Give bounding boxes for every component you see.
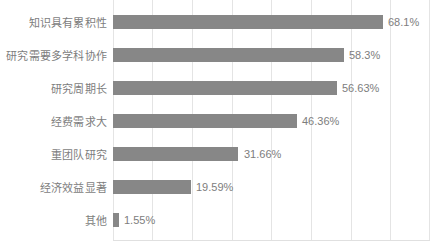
bar-row: 研究需要多学科协作 58.3% [0, 39, 442, 71]
bar[interactable] [113, 213, 119, 227]
category-label: 经费需求大 [0, 113, 107, 129]
value-label: 19.59% [196, 181, 233, 193]
bar[interactable] [113, 15, 383, 29]
bar[interactable] [113, 114, 297, 128]
category-label: 研究周期长 [0, 80, 107, 96]
category-label: 经济效益显著 [0, 179, 107, 195]
bar-row: 知识具有累积性 68.1% [0, 6, 442, 38]
bar-row: 经费需求大 46.36% [0, 105, 442, 137]
bar[interactable] [113, 147, 238, 161]
value-label: 31.66% [244, 148, 281, 160]
value-label: 58.3% [349, 49, 380, 61]
value-label: 1.55% [124, 214, 155, 226]
category-label: 重团队研究 [0, 146, 107, 162]
value-label: 46.36% [302, 115, 339, 127]
bar[interactable] [113, 180, 191, 194]
bar-row: 重团队研究 31.66% [0, 138, 442, 170]
bar-row: 经济效益显著 19.59% [0, 171, 442, 203]
value-label: 56.63% [342, 82, 379, 94]
horizontal-bar-chart: 知识具有累积性 68.1% 研究需要多学科协作 58.3% 研究周期长 56.6… [0, 0, 442, 241]
value-label: 68.1% [388, 16, 419, 28]
bar-row: 其他 1.55% [0, 204, 442, 236]
category-label: 其他 [0, 212, 107, 228]
category-label: 研究需要多学科协作 [0, 47, 107, 63]
category-label: 知识具有累积性 [0, 14, 107, 30]
bar[interactable] [113, 48, 344, 62]
bar[interactable] [113, 81, 337, 95]
bar-row: 研究周期长 56.63% [0, 72, 442, 104]
